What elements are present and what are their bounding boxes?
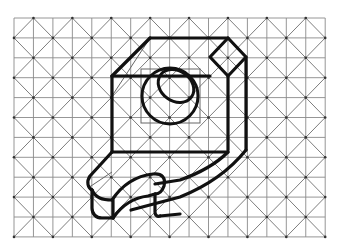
cube-top bbox=[210, 38, 246, 76]
hole-boss bbox=[142, 63, 200, 124]
base-left-diagonal bbox=[88, 152, 112, 190]
object-outline bbox=[88, 38, 246, 218]
slot-curve bbox=[112, 174, 165, 200]
slot-right-vertical bbox=[155, 194, 160, 216]
drawing-canvas: Isometric sketch of bracket on square/di… bbox=[0, 0, 341, 250]
bracket-sketch bbox=[0, 0, 341, 250]
left-chamfer bbox=[112, 38, 150, 76]
base-front-right bbox=[160, 214, 180, 216]
base-inner-curve bbox=[155, 152, 228, 184]
construction-lines bbox=[88, 38, 200, 188]
base-right-curve bbox=[131, 150, 246, 210]
base-front-top bbox=[92, 190, 112, 200]
